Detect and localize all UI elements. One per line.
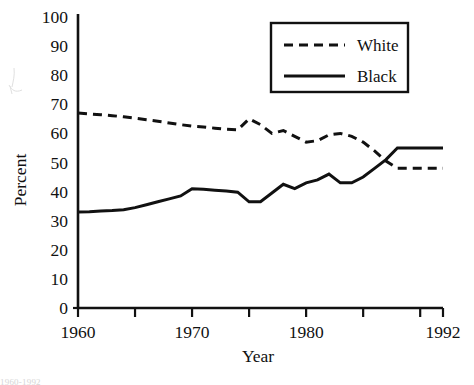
x-tick-label-1980: 1980 (289, 322, 324, 342)
y-axis-title: Percent (10, 154, 30, 207)
y-tick-label-10: 10 (51, 269, 69, 289)
x-axis-title: Year (242, 346, 274, 366)
y-tick-label-60: 60 (51, 123, 69, 143)
y-tick-label-0: 0 (59, 298, 68, 318)
y-tick-label-50: 50 (51, 153, 69, 173)
y-tick-label-70: 70 (51, 94, 69, 114)
y-tick-label-100: 100 (42, 7, 69, 27)
y-tick-label-40: 40 (51, 182, 69, 202)
series-line-white (78, 113, 443, 168)
legend-label-white: White (357, 36, 399, 55)
legend: White Black (271, 23, 408, 92)
x-axis-tick-labels: 1960197019801992 (61, 322, 461, 342)
x-axis-ticks (78, 308, 443, 317)
x-tick-label-1960: 1960 (61, 322, 96, 342)
y-tick-label-90: 90 (51, 36, 69, 56)
y-tick-label-30: 30 (51, 211, 69, 231)
series-layer (78, 113, 443, 212)
chart-container: 0102030405060708090100 1960197019801992 … (0, 0, 474, 385)
legend-label-black: Black (357, 67, 397, 86)
y-tick-label-80: 80 (51, 65, 69, 85)
x-tick-label-1970: 1970 (175, 322, 210, 342)
x-tick-label-1992: 1992 (426, 322, 461, 342)
y-tick-label-20: 20 (51, 240, 69, 260)
y-axis-tick-labels: 0102030405060708090100 (42, 7, 69, 318)
page-caption-fragment: 1960-1992 (0, 377, 474, 385)
line-chart: 0102030405060708090100 1960197019801992 … (0, 0, 474, 385)
series-line-black (78, 148, 443, 212)
